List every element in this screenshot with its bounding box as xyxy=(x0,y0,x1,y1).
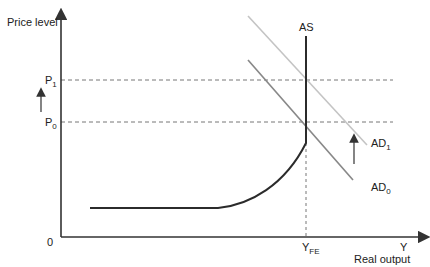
as-label: AS xyxy=(299,21,314,33)
p1-label: P1 xyxy=(45,74,57,89)
yfe-label: YFE xyxy=(302,241,320,256)
ad1-label: AD1 xyxy=(371,137,391,152)
ad0-curve xyxy=(248,60,353,180)
origin-label: 0 xyxy=(47,236,53,248)
x-axis-end-label: Y xyxy=(400,241,408,253)
p0-label: P0 xyxy=(45,116,57,131)
ad0-label: AD0 xyxy=(371,181,391,196)
x-axis-label: Real output xyxy=(354,253,410,265)
ad-as-diagram: Price level 0 P1 P0 AS AD1 AD0 YFE Y Rea… xyxy=(0,0,430,267)
y-axis-label: Price level xyxy=(7,16,58,28)
